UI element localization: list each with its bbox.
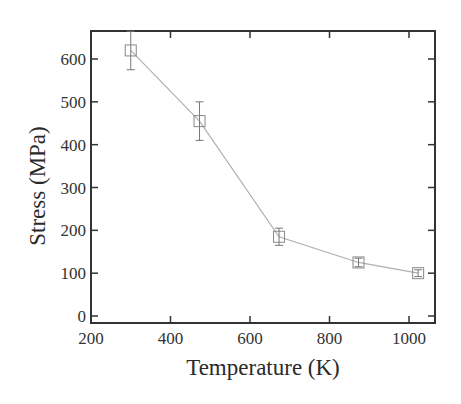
y-axis-ticks: 0100200300400500600 bbox=[61, 50, 436, 326]
x-tick-label: 600 bbox=[237, 329, 263, 348]
x-tick-label: 200 bbox=[78, 329, 104, 348]
x-tick-label: 400 bbox=[158, 329, 184, 348]
data-markers bbox=[125, 45, 423, 279]
y-tick-label: 200 bbox=[61, 221, 87, 240]
x-tick-label: 800 bbox=[317, 329, 343, 348]
plot-frame bbox=[91, 31, 435, 323]
y-tick-label: 400 bbox=[61, 136, 87, 155]
error-bars bbox=[127, 31, 422, 276]
x-tick-label: 1000 bbox=[392, 329, 426, 348]
y-tick-label: 500 bbox=[61, 93, 87, 112]
x-axis-label: Temperature (K) bbox=[186, 355, 340, 380]
plot-border bbox=[91, 31, 435, 323]
stress-temperature-chart: 2004006008001000 0100200300400500600 Tem… bbox=[0, 0, 461, 404]
series-polyline bbox=[131, 50, 418, 273]
y-tick-label: 300 bbox=[61, 179, 87, 198]
y-tick-label: 0 bbox=[78, 307, 87, 326]
y-tick-label: 100 bbox=[61, 264, 87, 283]
x-axis-ticks: 2004006008001000 bbox=[78, 31, 426, 348]
y-axis-label: Stress (MPa) bbox=[25, 126, 50, 245]
series-line bbox=[131, 50, 418, 273]
y-tick-label: 600 bbox=[61, 50, 87, 69]
